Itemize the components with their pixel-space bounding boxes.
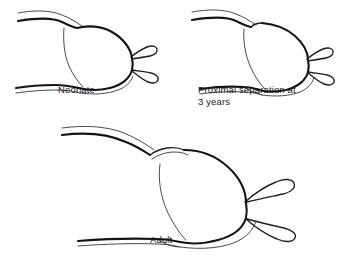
panel-neonate-caption: Neonate: [58, 84, 95, 96]
anatomical-outline-adult-icon: [40, 118, 310, 255]
panel-three-years: Proximal separation at 3 years: [170, 0, 339, 120]
panel-adult-caption: Adult: [150, 234, 172, 246]
panel-adult: Adult: [40, 118, 310, 255]
panel-three-years-caption: Proximal separation at 3 years: [198, 84, 296, 107]
anatomical-development-figure: Neonate: [0, 0, 339, 255]
panel-neonate: Neonate: [0, 0, 170, 110]
